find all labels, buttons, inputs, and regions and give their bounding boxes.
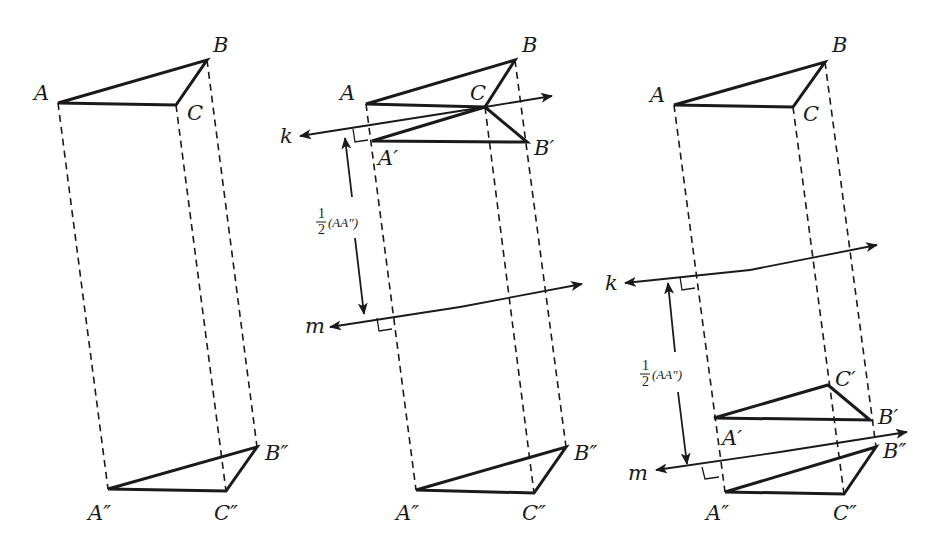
label-a: A [32,81,49,105]
panel-3: 1 2 (AA″) A B C k C′ B′ A′ m B″ A″ C″ [605,33,907,525]
label-k: k [605,271,618,295]
label-a1: A′ [376,146,398,170]
label-c2: C″ [522,501,546,525]
label-a2: A″ [394,501,419,525]
label-b1: B′ [877,405,898,429]
label-a: A [338,81,355,105]
svg-text:(AA″): (AA″) [652,367,682,382]
label-a1: A′ [720,426,742,450]
half-distance-label: 1 2 (AA″) [316,206,358,237]
label-c2: C″ [214,501,238,525]
reflection-translation-diagram: A B C A″ C″ B″ 1 2 (AA″ [0,0,939,553]
label-m: m [305,314,325,338]
label-b: B [831,33,847,57]
half-distance-label: 1 2 (AA″) [640,358,682,389]
label-b2: B″ [882,439,906,463]
label-b: B [212,33,228,57]
svg-text:2: 2 [642,374,649,389]
label-c: C [187,101,203,125]
label-b: B [521,33,537,57]
label-b2: B″ [264,441,288,465]
triangle-a2b2c2 [725,447,876,494]
label-b2: B″ [573,441,597,465]
label-c: C [470,81,486,105]
label-c1: C′ [835,367,856,391]
right-angle-m [702,467,719,479]
label-b1: B′ [533,136,554,160]
dashed-connectors [674,62,876,494]
triangle-a2b2c2 [108,447,257,491]
right-angle-k [353,129,368,142]
line-k [625,270,750,283]
label-a2: A″ [704,501,729,525]
triangle-abc [366,60,515,107]
label-k: k [280,124,293,148]
label-c2: C″ [833,501,857,525]
line-m [656,452,780,470]
label-a: A [648,83,665,107]
svg-text:1: 1 [642,358,649,373]
label-c: C [803,102,819,126]
panel-2: 1 2 (AA″) A B C A′ B′ k m A″ C″ B″ [280,33,597,525]
dashed-connectors [366,60,566,493]
line-k [300,107,485,136]
panel-1: A B C A″ C″ B″ [32,33,288,525]
triangle-a2b2c2 [416,447,566,493]
right-angle-k [680,277,695,290]
dashed-connectors [58,60,257,491]
label-a2: A″ [86,501,111,525]
svg-text:1: 1 [318,206,325,221]
svg-text:2: 2 [318,222,325,237]
label-m: m [628,461,648,485]
triangle-abc [58,60,207,105]
triangle-abc [674,62,825,107]
svg-text:(AA″): (AA″) [328,215,358,230]
